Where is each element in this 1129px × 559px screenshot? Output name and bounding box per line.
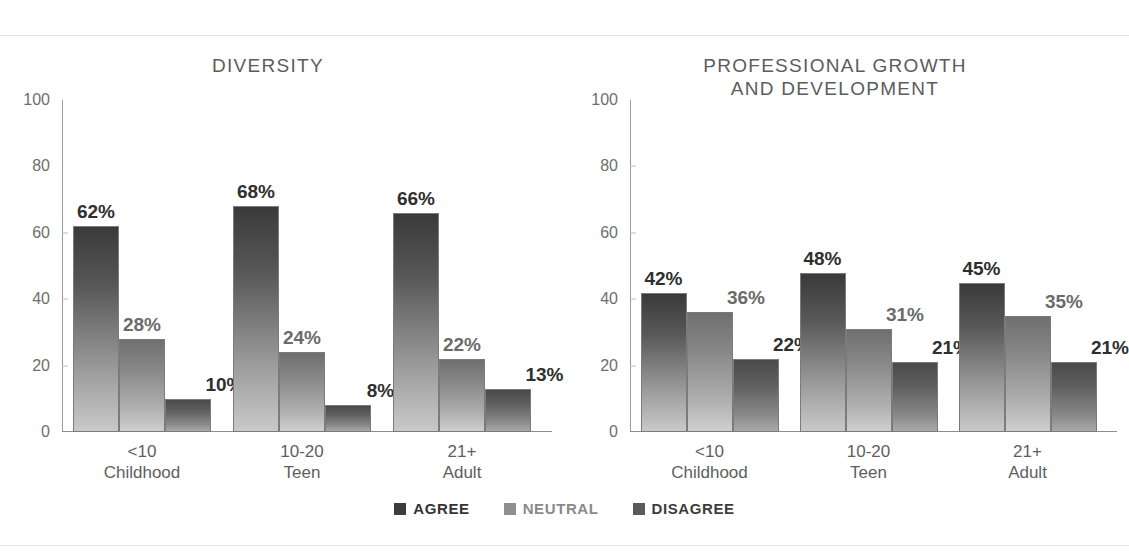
- charts-row: DIVERSITY 100 80 60 40 20 0 62% 28%: [0, 42, 1129, 492]
- x-category-adult: 21+ Adult: [393, 441, 531, 483]
- chart-title-diversity: DIVERSITY: [18, 54, 518, 77]
- x-category-label: <10: [641, 441, 779, 462]
- bar-disagree[interactable]: 10%: [165, 399, 211, 432]
- y-tick-label: 20: [32, 357, 62, 375]
- bar-group-childhood: 42% 36% 22% <10 Childhood: [641, 100, 779, 432]
- bar-value-label: 45%: [962, 258, 1000, 280]
- x-category-sublabel: Teen: [233, 462, 371, 483]
- top-divider-rule: [0, 35, 1129, 36]
- plot-area-professional-growth: 100 80 60 40 20 0 42% 36% 22%: [630, 100, 1107, 432]
- bar-value-label: 36%: [727, 287, 765, 309]
- x-category-sublabel: Adult: [393, 462, 531, 483]
- x-category-childhood: <10 Childhood: [641, 441, 779, 483]
- bar-group-teen: 68% 24% 8% 10-20 Teen: [233, 100, 371, 432]
- y-tick-label: 40: [32, 290, 62, 308]
- bar-disagree[interactable]: 8%: [325, 405, 371, 432]
- bar-disagree[interactable]: 22%: [733, 359, 779, 432]
- legend-swatch-icon: [633, 503, 645, 515]
- y-tick-label: 40: [600, 290, 630, 308]
- bar-value-label: 24%: [283, 327, 321, 349]
- bar-neutral[interactable]: 28%: [119, 339, 165, 432]
- bar-group-childhood: 62% 28% 10% <10 Childhood: [73, 100, 211, 432]
- bar-neutral[interactable]: 31%: [846, 329, 892, 432]
- legend-swatch-icon: [394, 503, 406, 515]
- legend-item-agree[interactable]: AGREE: [394, 500, 469, 517]
- bar-neutral[interactable]: 24%: [279, 352, 325, 432]
- y-tick-label: 80: [600, 157, 630, 175]
- chart-legend: AGREE NEUTRAL DISAGREE: [0, 500, 1129, 517]
- bar-group-teen: 48% 31% 21% 10-20 Teen: [800, 100, 938, 432]
- y-tick-label: 0: [41, 423, 62, 441]
- x-category-childhood: <10 Childhood: [73, 441, 211, 483]
- legend-label: NEUTRAL: [523, 500, 599, 517]
- y-tick-label: 80: [32, 157, 62, 175]
- bottom-divider-rule: [0, 545, 1129, 546]
- chart-title-line-1: PROFESSIONAL GROWTH: [590, 54, 1080, 77]
- legend-swatch-icon: [504, 503, 516, 515]
- x-category-teen: 10-20 Teen: [233, 441, 371, 483]
- plot-area-diversity: 100 80 60 40 20 0 62% 28% 10%: [62, 100, 542, 432]
- bar-value-label: 8%: [367, 380, 394, 402]
- bar-group-adult: 66% 22% 13% 21+ Adult: [393, 100, 531, 432]
- bar-neutral[interactable]: 22%: [439, 359, 485, 432]
- bar-groups-right: 42% 36% 22% <10 Childhood 48%: [630, 100, 1107, 432]
- y-tick-label: 20: [600, 357, 630, 375]
- x-category-sublabel: Adult: [959, 462, 1097, 483]
- y-tick-label: 60: [32, 224, 62, 242]
- bar-agree[interactable]: 42%: [641, 293, 687, 432]
- bar-disagree[interactable]: 21%: [1051, 362, 1097, 432]
- bar-agree[interactable]: 48%: [800, 273, 846, 432]
- legend-item-neutral[interactable]: NEUTRAL: [504, 500, 599, 517]
- chart-diversity: DIVERSITY 100 80 60 40 20 0 62% 28%: [0, 42, 560, 492]
- bar-agree[interactable]: 68%: [233, 206, 279, 432]
- bar-value-label: 28%: [123, 314, 161, 336]
- legend-item-disagree[interactable]: DISAGREE: [633, 500, 735, 517]
- bar-value-label: 66%: [397, 188, 435, 210]
- y-tick-label: 60: [600, 224, 630, 242]
- chart-title-line-2: AND DEVELOPMENT: [590, 77, 1080, 100]
- x-category-label: 10-20: [800, 441, 938, 462]
- bar-value-label: 68%: [237, 181, 275, 203]
- bar-group-adult: 45% 35% 21% 21+ Adult: [959, 100, 1097, 432]
- bar-neutral[interactable]: 35%: [1005, 316, 1051, 432]
- bar-value-label: 48%: [803, 248, 841, 270]
- x-category-teen: 10-20 Teen: [800, 441, 938, 483]
- bar-neutral[interactable]: 36%: [687, 312, 733, 432]
- y-tick-label: 0: [609, 423, 630, 441]
- bar-disagree[interactable]: 21%: [892, 362, 938, 432]
- x-category-adult: 21+ Adult: [959, 441, 1097, 483]
- bar-value-label: 62%: [77, 201, 115, 223]
- chart-professional-growth: PROFESSIONAL GROWTH AND DEVELOPMENT 100 …: [560, 42, 1129, 492]
- bar-value-label: 31%: [886, 304, 924, 326]
- chart-title-professional-growth: PROFESSIONAL GROWTH AND DEVELOPMENT: [590, 54, 1080, 100]
- bar-value-label: 13%: [525, 364, 563, 386]
- x-category-label: 21+: [393, 441, 531, 462]
- bar-value-label: 22%: [443, 334, 481, 356]
- bar-value-label: 21%: [1091, 337, 1129, 359]
- x-category-sublabel: Teen: [800, 462, 938, 483]
- legend-label: AGREE: [413, 500, 469, 517]
- bar-agree[interactable]: 45%: [959, 283, 1005, 432]
- y-tick-label: 100: [23, 91, 62, 109]
- x-category-label: 10-20: [233, 441, 371, 462]
- bar-value-label: 42%: [644, 268, 682, 290]
- bar-value-label: 35%: [1045, 291, 1083, 313]
- x-category-label: 21+: [959, 441, 1097, 462]
- x-category-sublabel: Childhood: [73, 462, 211, 483]
- x-category-sublabel: Childhood: [641, 462, 779, 483]
- bar-agree[interactable]: 66%: [393, 213, 439, 432]
- y-tick-label: 100: [591, 91, 630, 109]
- bar-disagree[interactable]: 13%: [485, 389, 531, 432]
- bar-agree[interactable]: 62%: [73, 226, 119, 432]
- x-category-label: <10: [73, 441, 211, 462]
- legend-label: DISAGREE: [652, 500, 735, 517]
- bar-groups-left: 62% 28% 10% <10 Childhood 68%: [62, 100, 542, 432]
